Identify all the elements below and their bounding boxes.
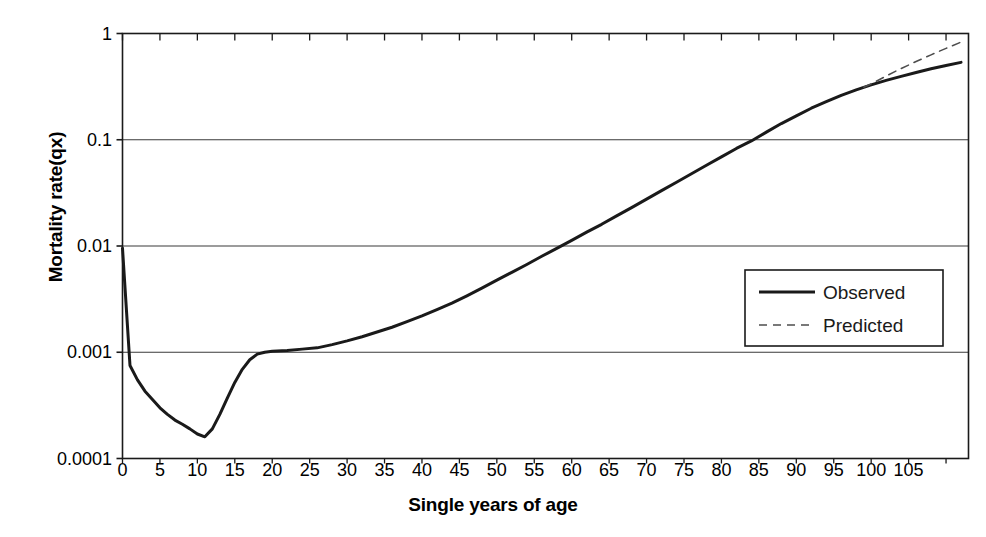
- left-axis-ticks: [117, 34, 123, 459]
- series-line-observed: [123, 62, 962, 436]
- top-axis-ticks: [123, 34, 947, 41]
- mortality-rate-chart: Mortality rate(qx) Single years of age 1…: [0, 0, 986, 537]
- legend-label-predicted: Predicted: [823, 315, 903, 336]
- plot-area: ObservedPredicted: [0, 0, 986, 537]
- chart-legend: ObservedPredicted: [745, 270, 943, 346]
- legend-label-observed: Observed: [823, 282, 905, 303]
- data-series: [123, 42, 962, 437]
